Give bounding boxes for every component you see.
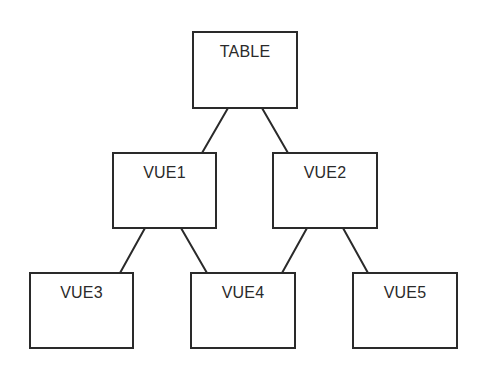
node-label: VUE2	[274, 164, 376, 182]
node-vue5: VUE5	[352, 272, 458, 349]
edge-table-vue1	[202, 108, 228, 153]
node-vue3: VUE3	[29, 272, 134, 349]
node-label: VUE3	[31, 284, 132, 302]
node-label: VUE4	[192, 284, 294, 302]
node-vue1: VUE1	[112, 152, 217, 229]
node-label: VUE1	[114, 164, 215, 182]
edge-vue1-vue3	[120, 228, 145, 273]
node-label: TABLE	[194, 43, 296, 61]
node-label: VUE5	[354, 284, 456, 302]
edge-vue1-vue4	[181, 228, 207, 273]
node-vue4: VUE4	[190, 272, 296, 349]
edge-vue2-vue5	[343, 228, 368, 273]
edge-vue2-vue4	[282, 228, 307, 273]
node-table: TABLE	[192, 31, 298, 109]
edge-table-vue2	[262, 108, 288, 153]
tree-diagram: TABLE VUE1 VUE2 VUE3 VUE4 VUE5	[0, 0, 487, 379]
node-vue2: VUE2	[272, 152, 378, 229]
